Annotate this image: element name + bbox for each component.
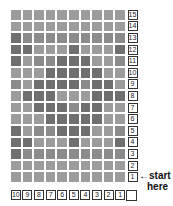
grid-cell (56, 113, 68, 125)
grid-cell (91, 67, 103, 79)
row-number: 10 (128, 68, 138, 78)
grid-cell (80, 148, 92, 160)
grid-cell (56, 79, 68, 91)
grid-cell (91, 113, 103, 125)
grid-cell (22, 32, 34, 44)
grid-cell (103, 137, 115, 149)
grid-cell (68, 55, 80, 67)
grid-cell (22, 90, 34, 102)
column-label: 1 (114, 189, 126, 201)
grid-cell (56, 9, 68, 21)
grid-cell (103, 160, 115, 172)
row-label: 2 (127, 160, 138, 172)
grid-cell (56, 44, 68, 56)
grid-cell (10, 32, 22, 44)
grid-cell (103, 171, 115, 183)
column-number-labels: 10987654321 (10, 189, 138, 201)
grid-cell (10, 21, 22, 33)
column-number: 8 (34, 190, 44, 200)
grid-cell (68, 67, 80, 79)
grid-cell (10, 44, 22, 56)
row-label: 10 (127, 67, 138, 79)
row-number: 8 (128, 91, 138, 101)
grid-cell (80, 9, 92, 21)
grid-cell (45, 113, 57, 125)
grid-cell (91, 90, 103, 102)
row-label: 11 (127, 55, 138, 67)
grid-cell (68, 44, 80, 56)
grid-cell (45, 32, 57, 44)
grid-cell (45, 125, 57, 137)
grid-cell (91, 9, 103, 21)
grid-cell (103, 9, 115, 21)
grid-cell (114, 67, 126, 79)
grid-cell (10, 113, 22, 125)
left-arrow-icon: ← (139, 170, 149, 181)
grid-cell (22, 79, 34, 91)
grid-cell (45, 137, 57, 149)
grid-cell (45, 67, 57, 79)
grid-cell (80, 125, 92, 137)
row-number: 2 (128, 161, 138, 171)
row-number: 15 (128, 10, 138, 20)
grid-cell (103, 125, 115, 137)
grid-cell (56, 160, 68, 172)
grid-cell (80, 90, 92, 102)
grid-cell (68, 137, 80, 149)
grid-cell (114, 137, 126, 149)
grid-cell (114, 171, 126, 183)
column-label: 7 (45, 189, 57, 201)
grid-cell (80, 21, 92, 33)
column-label: 9 (22, 189, 34, 201)
grid-cell (114, 79, 126, 91)
grid-cell (33, 32, 45, 44)
grid-cell (33, 67, 45, 79)
grid-cell (56, 125, 68, 137)
row-number: 7 (128, 103, 138, 113)
grid-cell (33, 148, 45, 160)
column-label: 10 (10, 189, 22, 201)
grid-cell (33, 55, 45, 67)
row-label: 5 (127, 125, 138, 137)
grid-cell (103, 148, 115, 160)
grid-cell (80, 79, 92, 91)
grid-cell (10, 102, 22, 114)
grid-cell (80, 44, 92, 56)
grid-cell (45, 79, 57, 91)
grid-cell (68, 125, 80, 137)
grid-cell (103, 113, 115, 125)
grid-cell (80, 102, 92, 114)
pattern-grid (10, 9, 126, 183)
column-number: 3 (92, 190, 102, 200)
column-number: 4 (80, 190, 90, 200)
grid-cell (80, 55, 92, 67)
grid-cell (114, 21, 126, 33)
grid-cell (103, 90, 115, 102)
grid-cell (114, 44, 126, 56)
grid-cell (91, 44, 103, 56)
grid-cell (103, 79, 115, 91)
row-label: 3 (127, 148, 138, 160)
grid-cell (33, 21, 45, 33)
grid-cell (10, 67, 22, 79)
grid-cell (68, 160, 80, 172)
row-label: 14 (127, 21, 138, 33)
row-label: 9 (127, 79, 138, 91)
grid-cell (91, 137, 103, 149)
grid-cell (10, 55, 22, 67)
grid-cell (91, 102, 103, 114)
column-number: 7 (46, 190, 56, 200)
column-label: 2 (103, 189, 115, 201)
grid-cell (33, 79, 45, 91)
grid-cell (45, 148, 57, 160)
grid-cell (22, 44, 34, 56)
column-number: 6 (57, 190, 67, 200)
grid-cell (45, 21, 57, 33)
grid-cell (22, 125, 34, 137)
grid-cell (114, 55, 126, 67)
grid-cell (91, 79, 103, 91)
row-number: 3 (128, 149, 138, 159)
grid-cell (33, 160, 45, 172)
grid-cell (45, 102, 57, 114)
grid-cell (68, 9, 80, 21)
